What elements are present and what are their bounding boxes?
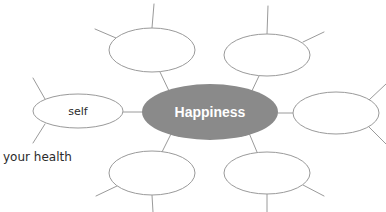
connector-center-bottom-right (249, 133, 257, 152)
free-label-your-health: your health (3, 150, 72, 164)
node-top-left[interactable] (109, 28, 195, 72)
connector-center-bottom-left (162, 134, 171, 152)
spoke-bottom-left-downleft (96, 186, 117, 196)
node-label-self: self (68, 105, 89, 118)
spoke-self-downleft (33, 124, 45, 143)
spoke-top-right-upright (303, 32, 324, 42)
spoke-top-left-up (152, 4, 154, 28)
bubble-map-diagram: Happiness self your health (0, 0, 386, 212)
spoke-self-upleft (33, 78, 45, 99)
node-right[interactable] (293, 92, 379, 134)
spoke-right-upright (369, 84, 386, 100)
node-bottom-left[interactable] (109, 151, 195, 195)
spoke-right-downright (369, 127, 386, 144)
node-bottom-right[interactable] (224, 152, 310, 194)
spoke-bottom-right-downright (303, 185, 324, 196)
diagram-canvas: Happiness self your health (0, 0, 386, 212)
spoke-bottom-left-down (152, 195, 153, 212)
node-top-right[interactable] (224, 34, 310, 76)
spoke-top-left-upleft (95, 29, 116, 38)
spoke-top-right-up (267, 6, 268, 34)
center-node-label: Happiness (175, 104, 246, 120)
